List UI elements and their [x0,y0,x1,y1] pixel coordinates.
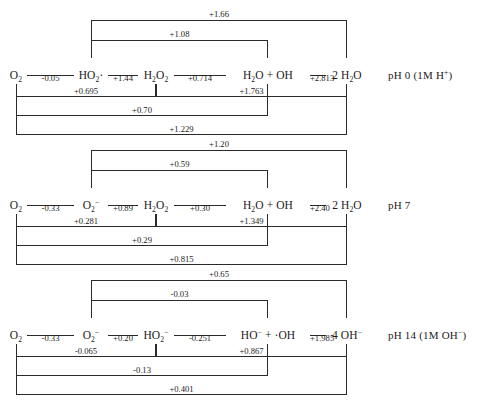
span-leg-right [346,150,347,188]
span-potential-value: +0.59 [91,160,268,169]
span-bar [91,40,268,41]
step-potential-value: -0.251 [174,334,226,343]
span-connector-above: -0.03 [91,300,268,318]
ph-condition-label: pH 7 [388,196,411,214]
step-potential-value: +0.20 [108,334,138,343]
step-connector: +0.714 [174,75,226,76]
step-potential-value: -0.33 [27,334,74,343]
step-connector: +2.40 [310,205,326,206]
span-leg-right [267,170,268,188]
step-connector: +0.30 [174,205,226,206]
step-potential-value: +2.40 [310,204,326,213]
span-leg-left [91,300,92,318]
span-connector-above: +1.08 [91,40,268,58]
step-connector: +2.813 [310,75,326,76]
step-connector: -0.33 [27,335,74,336]
span-potential-value: +0.65 [91,270,347,279]
span-leg-right [267,300,268,318]
span-leg-left [91,170,92,188]
span-connector-below: +1.229 [16,84,347,135]
span-leg-right [346,280,347,318]
step-potential-value: +1.985 [310,334,326,343]
span-bar [91,170,268,171]
species-chain: O2O2−H2O2H2O + OH2 H2O-0.33+0.89+0.30+2.… [0,196,370,214]
span-potential-value: +1.66 [91,10,347,19]
span-leg-right [267,40,268,58]
span-connector-below: +0.815 [16,214,347,265]
step-potential-value: +2.813 [310,74,326,83]
span-leg-right [346,20,347,58]
span-potential-value: +1.20 [91,140,347,149]
latimer-diagram-figure: O2HO2·H2O2H2O + OH2 H2O-0.05+1.44+0.714+… [0,0,485,405]
span-leg-left [91,40,92,58]
span-potential-value: +0.401 [16,385,347,394]
step-potential-value: -0.05 [27,74,74,83]
span-potential-value: -0.03 [91,290,268,299]
span-potential-value: +1.08 [91,30,268,39]
latimer-panel-ph-0: O2HO2·H2O2H2O + OH2 H2O-0.05+1.44+0.714+… [0,4,485,132]
ph-condition-label: pH 0 (1M H+) [388,66,452,86]
span-connector-below: +0.401 [16,344,347,395]
step-connector: +0.20 [108,335,138,336]
species-chain: O2O2−HO2−HO− + ·OH4 OH−-0.33+0.20-0.251+… [0,326,370,344]
span-bar [91,300,268,301]
span-potential-value: +0.815 [16,255,347,264]
span-potential-value: +1.229 [16,125,347,134]
step-potential-value: +0.714 [174,74,226,83]
step-connector: -0.33 [27,205,74,206]
step-connector: +0.89 [108,205,138,206]
span-bar [91,20,347,21]
span-bar [16,394,347,395]
span-bar [91,150,347,151]
step-connector: -0.251 [174,335,226,336]
ph-condition-label: pH 14 (1M OH−) [388,326,466,346]
latimer-panel-ph-14: O2O2−HO2−HO− + ·OH4 OH−-0.33+0.20-0.251+… [0,264,485,392]
step-potential-value: -0.33 [27,204,74,213]
step-connector: +1.44 [108,75,138,76]
step-potential-value: +0.89 [108,204,138,213]
span-connector-above: +0.59 [91,170,268,188]
span-bar [91,280,347,281]
step-potential-value: +1.44 [108,74,138,83]
step-connector: -0.05 [27,75,74,76]
species-chain: O2HO2·H2O2H2O + OH2 H2O-0.05+1.44+0.714+… [0,66,370,84]
step-connector: +1.985 [310,335,326,336]
latimer-panel-ph-7: O2O2−H2O2H2O + OH2 H2O-0.33+0.89+0.30+2.… [0,134,485,262]
step-potential-value: +0.30 [174,204,226,213]
